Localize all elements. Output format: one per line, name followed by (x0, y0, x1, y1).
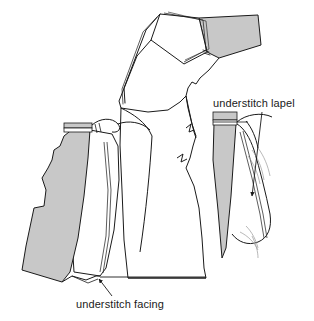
inset-band-lower (213, 120, 237, 125)
understitch-lapel-label: understitch lapel (213, 97, 295, 109)
understitch-facing-label: understitch facing (76, 298, 164, 310)
inset-band-upper (213, 112, 237, 120)
facing-shoulder-band-upper (64, 123, 92, 128)
sewing-diagram: understitch lapel understitch facing (0, 0, 314, 321)
illustration-canvas: understitch lapel understitch facing (0, 0, 314, 321)
facing-shoulder-band-lower (64, 128, 92, 132)
